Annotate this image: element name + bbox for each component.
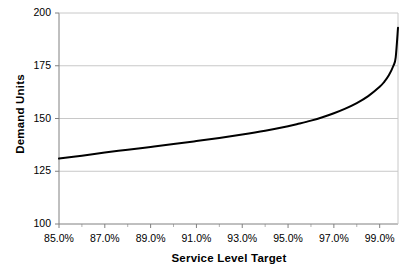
gridlines-group	[55, 13, 398, 224]
x-axis-tick-label: 99.0%	[354, 232, 406, 244]
x-axis-tick-label: 95.0%	[262, 232, 314, 244]
x-axis-tick-label: 87.0%	[79, 232, 131, 244]
x-axis-title: Service Level Target	[59, 252, 399, 264]
x-axis-tick-label: 97.0%	[308, 232, 360, 244]
y-axis-tick-label: 100	[11, 217, 51, 229]
data-series-line	[59, 28, 398, 159]
x-axis-tick-label: 85.0%	[33, 232, 85, 244]
x-axis-tick-label: 93.0%	[216, 232, 268, 244]
x-axis-tick-label: 91.0%	[170, 232, 222, 244]
chart-plot-svg	[0, 0, 410, 271]
x-axis-tick-label: 89.0%	[125, 232, 177, 244]
y-axis-tick-label: 200	[11, 6, 51, 18]
x-tick-marks-group	[59, 224, 380, 228]
y-axis-title: Demand Units	[14, 54, 26, 174]
chart-container: 100125150175200 85.0%87.0%89.0%91.0%93.0…	[0, 0, 410, 271]
